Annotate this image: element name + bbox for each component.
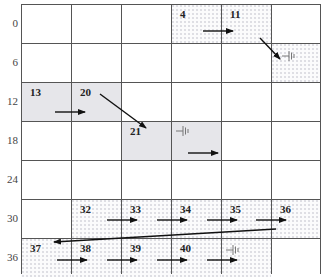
ground-icon	[282, 51, 294, 61]
arrow-diagonal	[100, 94, 146, 128]
ground-icon	[176, 126, 188, 136]
arrow-diagonal	[260, 38, 280, 59]
arrow-return	[54, 229, 276, 242]
ground-icon	[226, 245, 238, 255]
